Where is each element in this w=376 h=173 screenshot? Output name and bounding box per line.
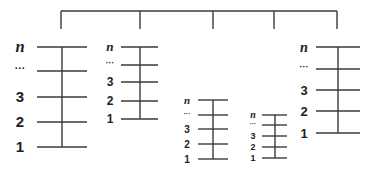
top-connector: [61, 11, 337, 29]
rung-label: 1: [16, 138, 24, 155]
rung-label: ···: [106, 58, 114, 68]
ladder-5: 123···n: [299, 39, 360, 141]
ladder-1: 123···n: [15, 37, 87, 155]
rung-label: 2: [16, 113, 24, 130]
rung-label: 2: [107, 94, 114, 108]
rung-label: 2: [300, 104, 307, 119]
rung-label: 3: [107, 75, 114, 89]
rung-label: 2: [250, 142, 255, 152]
ladder-4: 123···n: [250, 109, 287, 163]
rung-label: n: [300, 39, 308, 55]
rung-label: 1: [184, 154, 190, 165]
ladder-tree-diagram: 123···n123···n123···n123···n123···n: [0, 0, 376, 173]
rung-label: n: [15, 37, 24, 56]
rung-label: ···: [250, 120, 256, 127]
ladder-2: 123···n: [106, 39, 158, 126]
rung-label: 1: [107, 112, 114, 126]
rung-label: 3: [250, 131, 255, 141]
rung-label: 3: [16, 88, 24, 105]
rung-label: n: [184, 94, 190, 106]
rung-label: 1: [250, 153, 255, 163]
rung-label: 3: [300, 83, 307, 98]
rung-label: n: [106, 39, 113, 54]
rung-label: n: [250, 109, 256, 120]
ladders-group: 123···n123···n123···n123···n123···n: [15, 37, 360, 164]
rung-label: 2: [184, 139, 190, 150]
rung-label: ···: [299, 62, 308, 72]
rung-label: 1: [300, 126, 307, 141]
rung-label: ···: [184, 110, 191, 117]
rung-label: ···: [15, 62, 26, 74]
rung-label: 3: [184, 124, 190, 135]
ladder-3: 123···n: [184, 94, 229, 165]
